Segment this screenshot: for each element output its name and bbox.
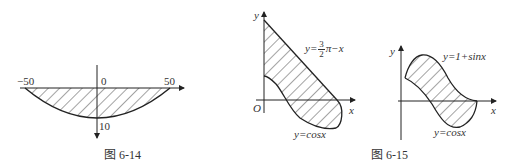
x-axis-label-right: x [491,105,496,116]
line-label-suffix: π−x [326,42,344,54]
figure-6-15-left-plot [256,12,355,129]
x-tick-neg50: −50 [17,76,34,87]
left-shaded-region [264,20,342,129]
y-axis-label-left: y [254,10,259,21]
line-label: y=32π−x [305,40,344,59]
y-axis-label-right: y [390,46,395,57]
caption-fig-6-14: 图 6-14 [104,145,141,163]
y-tick-10: 10 [99,121,110,132]
origin-label: O [253,103,261,114]
fraction-denominator: 2 [318,50,325,59]
caption-fig-6-15: 图 6-15 [371,145,408,163]
line-label-prefix: y= [305,42,317,54]
x-tick-50: 50 [164,76,175,87]
x-tick-0: 0 [101,76,107,87]
cos-label-left: y=cosx [294,129,326,140]
x-axis-label-left: x [349,105,354,116]
fraction-3-2: 32 [318,40,325,59]
cos-label-right: y=cosx [434,127,466,138]
one-plus-sin-label: y=1+sinx [443,51,486,62]
figures-canvas [0,0,508,168]
